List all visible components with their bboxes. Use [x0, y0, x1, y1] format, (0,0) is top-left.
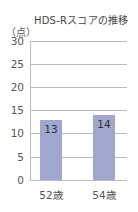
gridline-25 [30, 64, 127, 65]
y-tick-25: 25 [4, 58, 24, 70]
bar-label-52: 13 [40, 123, 62, 135]
y-axis [30, 41, 31, 180]
y-tick-30: 30 [4, 35, 24, 47]
y-tick-20: 20 [4, 81, 24, 93]
x-axis [30, 180, 127, 181]
gridline-30 [30, 41, 127, 42]
y-tick-15: 15 [4, 104, 24, 116]
y-tick-0: 0 [4, 174, 24, 186]
y-tick-5: 5 [4, 151, 24, 163]
bar-label-54: 14 [93, 118, 115, 130]
x-label-52: 52歳 [31, 187, 71, 202]
chart-title: HDS-Rスコアの推移 [34, 12, 128, 27]
gridline-15 [30, 110, 127, 111]
x-label-54: 54歳 [84, 187, 124, 202]
y-tick-10: 10 [4, 127, 24, 139]
gridline-20 [30, 87, 127, 88]
